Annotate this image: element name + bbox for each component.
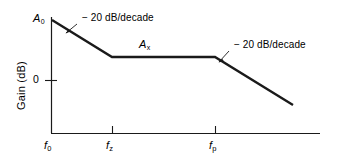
x-tick-label-fp: fp <box>209 140 216 151</box>
slope-left-annotation: − 20 dB/decade <box>82 13 154 23</box>
slope-right-leader-line <box>219 51 229 62</box>
gain-asymptote-curve <box>52 20 293 105</box>
plateau-gain-base: A <box>139 38 146 50</box>
y-tick-label-zero: 0 <box>33 74 39 85</box>
initial-gain-label: A0 <box>33 13 44 24</box>
x-tick-label-f0-subscript: 0 <box>47 144 51 153</box>
plot-canvas <box>0 0 344 162</box>
bode-plot-figure: Gain (dB) 0 A0 Ax − 20 dB/decade − 20 dB… <box>0 0 344 162</box>
x-tick-label-fz: fz <box>106 140 113 151</box>
x-tick-label-fz-subscript: z <box>109 144 113 153</box>
plateau-gain-label: Ax <box>139 39 150 50</box>
initial-gain-base: A <box>33 12 40 24</box>
initial-gain-subscript: 0 <box>41 18 45 25</box>
slope-right-annotation: − 20 dB/decade <box>234 40 306 50</box>
y-axis-title: Gain (dB) <box>16 61 27 110</box>
x-tick-label-fp-subscript: p <box>212 144 216 153</box>
plateau-gain-subscript: x <box>147 44 151 51</box>
x-tick-label-f0: f0 <box>44 140 51 151</box>
